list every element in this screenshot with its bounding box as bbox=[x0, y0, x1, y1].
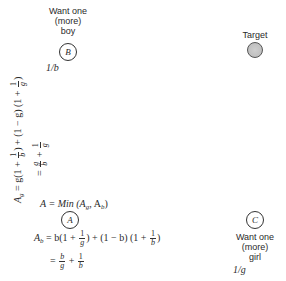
node-c-label-line2: (more) bbox=[230, 242, 280, 252]
node-b-label-line3: boy bbox=[44, 26, 92, 36]
node-c-label-line3: girl bbox=[230, 252, 280, 262]
node-c-value: 1/g bbox=[233, 264, 246, 276]
frac-1-over-b: 1b bbox=[150, 230, 156, 247]
target-circle bbox=[247, 42, 263, 58]
equation-ab-simplified: = bg + 1b bbox=[50, 253, 85, 270]
node-c-label-line1: Want one bbox=[230, 232, 280, 242]
frac-1-over-b: 1b bbox=[10, 152, 27, 158]
equation-ag-simplified: = gb + 1g bbox=[32, 141, 49, 176]
frac-g-over-b: gb bbox=[32, 161, 49, 167]
frac-1-over-b-simplified: 1b bbox=[78, 253, 84, 270]
node-c-letter: C bbox=[252, 215, 258, 225]
equation-ag: Ag = g(1 + 1b) + (1 − g) (1 + 1g) bbox=[10, 77, 27, 203]
node-b-label: Want one (more) boy bbox=[44, 6, 92, 36]
frac-1-over-g-simplified: 1g bbox=[32, 142, 49, 148]
target-label: Target bbox=[234, 30, 276, 40]
node-a-letter: A bbox=[67, 215, 73, 225]
node-b-label-line1: Want one bbox=[44, 6, 92, 16]
node-b-label-line2: (more) bbox=[44, 16, 92, 26]
node-b-circle: B bbox=[59, 43, 77, 61]
node-a-circle: A bbox=[61, 211, 79, 229]
frac-b-over-g: bg bbox=[59, 253, 65, 270]
node-a-definition: A = Min (Ag, Ab) bbox=[40, 198, 108, 213]
node-b-letter: B bbox=[65, 47, 71, 57]
node-c-circle: C bbox=[246, 211, 264, 229]
frac-1-over-g: 1g bbox=[10, 81, 27, 87]
frac-1-over-g: 1g bbox=[79, 230, 85, 247]
node-b-value: 1/b bbox=[46, 62, 59, 74]
equation-ab: Ab = b(1 + 1g) + (1 − b) (1 + 1b) bbox=[34, 230, 160, 247]
node-c-label: Want one (more) girl bbox=[230, 232, 280, 262]
